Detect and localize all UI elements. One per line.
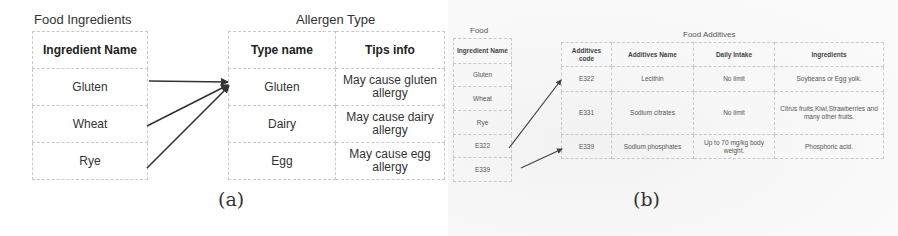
arrow-rye-to-gluten [147,86,229,168]
arrow-e322-to-e322 [509,80,561,148]
arrow-wheat-to-gluten [147,85,228,126]
arrow-gluten-to-gluten [149,81,228,82]
arrow-e339-to-e339 [521,149,562,168]
link-arrows [0,0,898,236]
